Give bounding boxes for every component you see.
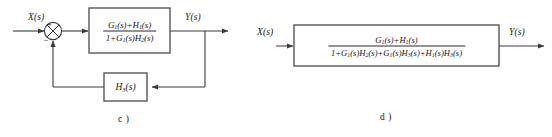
equivalent-block-denominator: 1+G1(s)H2(s)+G1(s)H3(s)+H1(s)H3(s) bbox=[328, 45, 465, 57]
block-diagram-panel-d: X(s) Y(s) G1(s)+H1(s) 1+G1(s)H2(s)+G1(s)… bbox=[276, 0, 552, 137]
forward-block-fraction: G1(s)+H1(s) 1+G1(s)H2(s) bbox=[103, 19, 157, 42]
panel-c-output-label: Y(s) bbox=[185, 13, 201, 23]
figure-canvas: X(s) + – Y(s) G1(s)+H1(s) 1+G1(s)H2(s) H… bbox=[0, 0, 552, 137]
panel-d-linework bbox=[276, 0, 552, 137]
panel-c-input-label: X(s) bbox=[28, 13, 44, 23]
panel-d-input-label: X(s) bbox=[257, 28, 273, 38]
equivalent-block-fraction: G1(s)+H1(s) 1+G1(s)H2(s)+G1(s)H3(s)+H1(s… bbox=[328, 34, 465, 57]
block-diagram-panel-c: X(s) + – Y(s) G1(s)+H1(s) 1+G1(s)H2(s) H… bbox=[0, 0, 276, 137]
panel-d-caption: d ) bbox=[380, 113, 392, 123]
forward-block-denominator: 1+G1(s)H2(s) bbox=[103, 30, 157, 42]
equivalent-block-numerator: G1(s)+H1(s) bbox=[372, 34, 420, 45]
feedback-block-label: H3(s) bbox=[115, 82, 135, 92]
forward-block-numerator: G1(s)+H1(s) bbox=[105, 19, 154, 30]
panel-c-caption: c ) bbox=[118, 115, 130, 125]
panel-d-output-label: Y(s) bbox=[509, 28, 525, 38]
summing-junction-plus-sign: + bbox=[47, 21, 52, 29]
summing-junction-minus-sign: – bbox=[44, 36, 48, 44]
